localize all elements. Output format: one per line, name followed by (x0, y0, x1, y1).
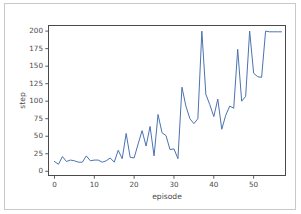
y-tick-label: 25 (34, 149, 43, 158)
x-tick-label: 30 (169, 180, 179, 189)
x-tick-label: 10 (90, 180, 100, 189)
y-tick-label: 50 (34, 131, 44, 140)
x-tick-label: 50 (249, 180, 259, 189)
y-tick-label: 0 (38, 166, 43, 175)
data-line-step (54, 31, 281, 164)
y-tick-label: 175 (29, 44, 43, 53)
x-tick-label: 40 (209, 180, 219, 189)
y-tick-label: 100 (29, 96, 43, 105)
figure-container: 010203040500255075100125150175200episode… (0, 0, 301, 214)
y-axis-label: step (18, 92, 27, 109)
chart-plot-area: 010203040500255075100125150175200episode… (0, 0, 301, 214)
y-tick-label: 150 (29, 61, 43, 70)
y-tick-label: 125 (29, 79, 43, 88)
x-tick-label: 0 (52, 180, 57, 189)
plot-frame (49, 26, 286, 176)
x-tick-label: 20 (130, 180, 140, 189)
y-tick-label: 200 (29, 26, 43, 35)
x-axis-label: episode (152, 192, 182, 201)
y-tick-label: 75 (34, 114, 43, 123)
